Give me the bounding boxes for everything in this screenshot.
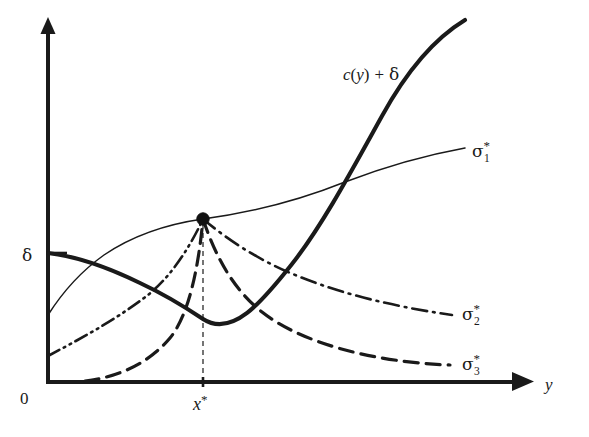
curves-group — [48, 20, 465, 381]
y-axis-arrow-icon — [41, 17, 56, 34]
sigma1-label-subscript: 1 — [484, 152, 490, 164]
sigma3-curve-left-branch — [85, 219, 203, 381]
sigma1-label: σ*1 — [472, 138, 490, 164]
sigma1-curve — [48, 148, 465, 315]
origin-label: 0 — [20, 389, 29, 408]
cost-curve-label-y: y — [354, 65, 364, 84]
cost-curve-label: c(y)+δ — [343, 64, 399, 84]
axes-group — [41, 17, 535, 391]
figure-container: c(y)+δ σ*1 σ*2 σ*3 δ 0 x* y — [0, 0, 589, 437]
cost-curve-label-paren-close: ) — [364, 65, 370, 84]
delta-axis-label: δ — [22, 245, 32, 265]
sigma3-label: σ*3 — [462, 351, 480, 377]
sigma1-label-superscript: * — [484, 138, 491, 153]
sigma2-label-superscript: * — [474, 301, 481, 316]
sigma1-label-symbol: σ — [472, 141, 484, 161]
intersection-point-dot — [197, 213, 209, 225]
xstar-label-superscript: * — [201, 392, 208, 407]
sigma3-label-subscript: 3 — [474, 365, 480, 377]
xstar-label-x: x — [192, 394, 201, 414]
math-figure-plot: c(y)+δ σ*1 σ*2 σ*3 δ 0 x* y — [0, 0, 589, 437]
sigma2-label: σ*2 — [462, 301, 480, 327]
cost-curve-label-delta: δ — [389, 64, 399, 84]
cost-curve-label-operator: + — [374, 65, 384, 84]
xstar-axis-label: x* — [192, 392, 208, 414]
sigma3-curve-right-branch — [203, 219, 450, 365]
sigma2-label-symbol: σ — [462, 304, 474, 324]
sigma2-curve-right-branch — [203, 219, 452, 315]
labels-group: c(y)+δ σ*1 σ*2 σ*3 δ 0 x* y — [20, 64, 553, 414]
sigma3-label-superscript: * — [474, 351, 481, 366]
sigma2-label-subscript: 2 — [474, 315, 480, 327]
x-axis-arrow-icon — [512, 372, 534, 391]
x-axis-variable-label: y — [543, 375, 553, 394]
sigma2-curve-left-branch — [48, 219, 203, 356]
cost-curve-c-of-y-plus-delta — [48, 20, 465, 324]
sigma3-label-symbol: σ — [462, 354, 474, 374]
